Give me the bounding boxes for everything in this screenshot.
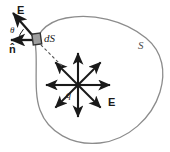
field-vector-bottom-label: E [108, 97, 115, 108]
angle-theta-label: θ [10, 26, 14, 35]
diagram-canvas [0, 0, 170, 152]
area-element-patch [32, 33, 42, 45]
charge-label: q [66, 90, 71, 100]
electric-field-ray-group [46, 53, 110, 117]
area-element-label: dS [44, 33, 55, 44]
field-vector-arrow-at-patch [13, 13, 34, 37]
angle-arc [19, 29, 24, 40]
gauss-law-diagram: E θ n̂ dS S q E [0, 0, 170, 152]
field-vector-top-label: E [17, 5, 24, 16]
surface-label: S [138, 40, 144, 51]
normal-vector-label: n̂ [9, 44, 16, 55]
